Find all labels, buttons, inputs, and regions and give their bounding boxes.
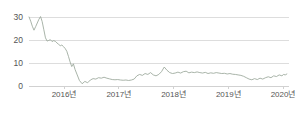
y-axis-tick-labels: 0102030: [14, 12, 24, 92]
x-tick-label: 2020년: [271, 89, 296, 99]
chart-canvas: 0102030 2016년2017년2018년2019년2020년: [0, 0, 300, 117]
series-line: [29, 17, 287, 84]
x-tick-label: 2018년: [161, 89, 186, 99]
x-axis-tick-labels: 2016년2017년2018년2019년2020년: [52, 89, 296, 99]
y-tick-label: 30: [14, 12, 24, 22]
x-tick-label: 2019년: [216, 89, 241, 99]
y-tick-label: 20: [14, 35, 24, 45]
line-chart: 0102030 2016년2017년2018년2019년2020년: [0, 0, 300, 117]
y-tick-label: 10: [14, 58, 24, 68]
gridlines: [29, 17, 289, 87]
y-tick-label: 0: [18, 81, 23, 91]
x-tick-label: 2017년: [106, 89, 131, 99]
data-series: [29, 17, 287, 84]
x-tick-label: 2016년: [52, 89, 77, 99]
